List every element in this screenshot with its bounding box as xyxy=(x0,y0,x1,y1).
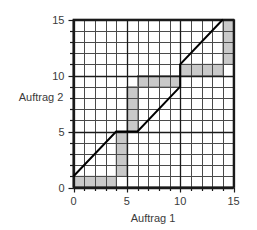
y-axis-title: Auftrag 2 xyxy=(19,91,64,103)
scheduling-grid-chart: 051015051015 Auftrag 1 Auftrag 2 xyxy=(0,0,257,230)
x-tick-label: 15 xyxy=(227,195,239,207)
blocked-region xyxy=(180,64,223,75)
x-tick-label: 10 xyxy=(174,195,186,207)
x-axis-title: Auftrag 1 xyxy=(131,212,176,224)
y-tick-label: 10 xyxy=(52,70,64,82)
blocked-region xyxy=(138,76,181,87)
x-tick-label: 0 xyxy=(70,195,76,207)
x-tick-label: 5 xyxy=(124,195,130,207)
blocked-region xyxy=(74,176,117,187)
chart-container: 051015051015 Auftrag 1 Auftrag 2 xyxy=(0,0,257,230)
blocked-region xyxy=(116,132,127,177)
y-tick-label: 5 xyxy=(58,126,64,138)
y-tick-label: 15 xyxy=(52,14,64,26)
y-tick-label: 0 xyxy=(58,182,64,194)
blocked-region xyxy=(223,20,234,65)
